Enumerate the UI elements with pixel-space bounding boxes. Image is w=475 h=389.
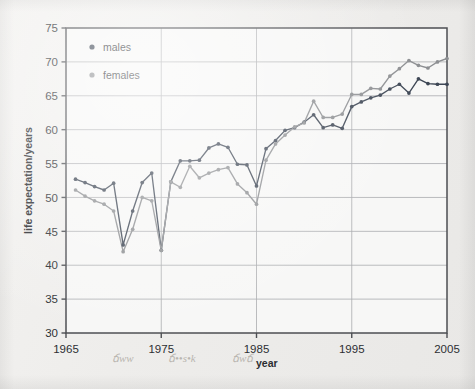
x-tick-label: 1995 — [339, 343, 365, 355]
data-point-males-2000 — [398, 82, 402, 86]
data-point-females-1982 — [226, 166, 230, 170]
line-chart-canvas: 30354045505560657075 1965197519851995200… — [0, 0, 475, 389]
x-axis-title: year — [256, 357, 278, 369]
y-tick-label: 65 — [45, 90, 58, 102]
data-point-females-1967 — [83, 194, 87, 198]
x-tick-label: 1965 — [53, 343, 79, 355]
data-point-females-2001 — [407, 59, 411, 63]
data-point-females-1971 — [121, 250, 125, 254]
data-point-males-1968 — [93, 185, 97, 189]
pencil-mark-2: ճ••­s•k — [168, 352, 197, 364]
data-point-females-1986 — [264, 158, 268, 162]
data-point-males-2005 — [445, 82, 449, 86]
data-point-males-1981 — [217, 142, 221, 146]
y-tick-label: 75 — [45, 22, 58, 34]
legend-label-males: males — [103, 41, 131, 53]
data-point-females-1970 — [112, 209, 116, 213]
data-point-males-1972 — [131, 209, 135, 213]
y-tick-label: 30 — [45, 327, 58, 339]
data-point-males-1970 — [112, 181, 116, 185]
data-point-males-1974 — [150, 171, 154, 175]
data-point-males-1985 — [255, 184, 259, 188]
data-point-males-2004 — [436, 82, 440, 86]
legend-marker-males — [89, 44, 94, 49]
data-point-females-1983 — [236, 182, 240, 186]
data-point-males-1973 — [140, 181, 144, 185]
data-point-females-1976 — [169, 180, 173, 184]
data-point-females-1985 — [255, 202, 259, 206]
y-tick-label: 70 — [45, 56, 58, 68]
data-point-males-1983 — [236, 162, 240, 166]
data-point-females-1998 — [378, 87, 382, 91]
data-point-females-1989 — [293, 125, 297, 129]
y-axis-title: life expectation/years — [22, 127, 34, 234]
data-point-females-1979 — [198, 176, 202, 180]
y-tick-label: 55 — [45, 158, 58, 170]
data-point-males-1967 — [83, 181, 87, 185]
data-point-females-1981 — [217, 168, 221, 172]
data-point-males-1982 — [226, 145, 230, 149]
data-point-males-1979 — [198, 158, 202, 162]
y-tick-label: 40 — [45, 259, 58, 271]
data-point-males-1991 — [312, 113, 316, 117]
data-point-males-2002 — [417, 77, 421, 81]
data-point-males-1984 — [245, 163, 249, 167]
data-point-males-1998 — [378, 93, 382, 97]
data-point-females-2000 — [398, 67, 402, 71]
data-point-females-1966 — [74, 188, 78, 192]
data-point-females-2002 — [417, 63, 421, 67]
data-point-females-2005 — [445, 57, 449, 61]
data-point-males-2001 — [407, 91, 411, 95]
pencil-mark-3: ճwճ — [232, 352, 254, 364]
data-point-females-1984 — [245, 191, 249, 195]
data-point-females-1991 — [312, 99, 316, 103]
data-point-females-2003 — [426, 66, 430, 70]
data-point-males-1993 — [331, 123, 335, 127]
data-point-females-1980 — [207, 171, 211, 175]
data-point-females-1969 — [102, 202, 106, 206]
y-tick-label: 35 — [45, 293, 58, 305]
data-point-males-1971 — [121, 243, 125, 247]
data-point-females-1977 — [178, 185, 182, 189]
legend-marker-females — [89, 72, 94, 77]
data-point-males-1988 — [283, 128, 287, 132]
data-point-males-1969 — [102, 188, 106, 192]
data-point-females-2004 — [436, 60, 440, 64]
data-point-females-1994 — [340, 112, 344, 116]
data-point-males-1994 — [340, 126, 344, 130]
data-point-females-1988 — [283, 133, 287, 137]
data-point-males-1987 — [274, 139, 278, 143]
data-point-females-1987 — [274, 142, 278, 146]
data-point-females-1978 — [188, 164, 192, 168]
data-point-females-1974 — [150, 199, 154, 203]
chart-figure: 30354045505560657075 1965197519851995200… — [0, 0, 475, 389]
data-point-females-1968 — [93, 199, 97, 203]
data-point-males-1999 — [388, 87, 392, 91]
data-point-males-1995 — [350, 105, 354, 109]
data-point-males-1996 — [359, 100, 363, 104]
y-tick-label: 50 — [45, 192, 58, 204]
data-point-females-1972 — [131, 227, 135, 231]
data-point-females-1992 — [321, 116, 325, 120]
data-point-males-2003 — [426, 82, 430, 86]
data-point-females-1996 — [359, 93, 363, 97]
y-tick-label: 60 — [45, 124, 58, 136]
data-point-males-1986 — [264, 147, 268, 151]
y-tick-label: 45 — [45, 226, 58, 238]
pencil-mark-1: ճww — [112, 352, 134, 364]
data-point-females-1990 — [302, 121, 306, 125]
pencil-annotations: ճwwճ••­s•kճwճ — [112, 352, 254, 364]
data-point-males-1966 — [74, 177, 78, 181]
data-point-females-1993 — [331, 116, 335, 120]
data-point-males-1992 — [321, 126, 325, 130]
data-point-females-1995 — [350, 93, 354, 97]
x-tick-label: 2005 — [434, 343, 460, 355]
data-point-females-1997 — [369, 86, 373, 90]
data-point-females-1975 — [159, 248, 163, 252]
data-point-females-1973 — [140, 196, 144, 200]
data-point-females-1999 — [388, 74, 392, 78]
data-point-males-1980 — [207, 146, 211, 150]
data-point-males-1997 — [369, 96, 373, 100]
data-point-males-1978 — [188, 159, 192, 163]
data-point-males-1977 — [178, 159, 182, 163]
